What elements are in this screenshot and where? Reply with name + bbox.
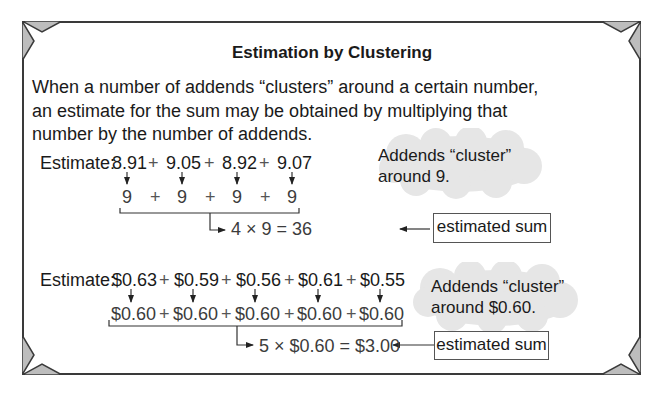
bracket-connector-1 [210, 213, 225, 230]
addend-2-5: $0.55 [360, 270, 405, 290]
addend-1-2: 9.05 [166, 153, 201, 173]
rounded-2-4: $0.60 [297, 304, 342, 324]
plus-sign: + [159, 304, 170, 324]
plus-sign: + [221, 270, 232, 290]
estimated-sum-box-2: estimated sum [434, 331, 549, 360]
plus-sign: + [260, 187, 271, 207]
rounded-2-1: $0.60 [111, 304, 156, 324]
addend-2-4: $0.61 [298, 270, 343, 290]
addend-2-1: $0.63 [112, 270, 157, 290]
rounded-1-3: 9 [232, 187, 242, 207]
plus-sign: + [148, 153, 159, 173]
plus-sign: + [221, 304, 232, 324]
estimate-label-1: Estimate: [40, 153, 115, 173]
rounded-2-5: $0.60 [359, 304, 404, 324]
result-expression-1: 4 × 9 = 36 [231, 219, 312, 239]
plus-sign: + [259, 153, 270, 173]
estimated-sum-box-1: estimated sum [433, 213, 551, 243]
bracket-1 [120, 208, 299, 213]
addend-1-4: 9.07 [277, 153, 312, 173]
addend-2-3: $0.56 [236, 270, 281, 290]
addend-1-3: 8.92 [222, 153, 257, 173]
plus-sign: + [346, 304, 357, 324]
plus-sign: + [205, 187, 216, 207]
estimate-label-2: Estimate: [40, 270, 115, 290]
bracket-connector-2 [237, 326, 253, 345]
addend-2-2: $0.59 [174, 270, 219, 290]
result-expression-2: 5 × $0.60 = $3.00 [259, 336, 400, 356]
plus-sign: + [346, 270, 357, 290]
rounded-2-2: $0.60 [173, 304, 218, 324]
plus-sign: + [150, 187, 161, 207]
addend-1-1: 8.91 [112, 153, 147, 173]
plus-sign: + [284, 304, 295, 324]
plus-sign: + [204, 153, 215, 173]
rounded-1-2: 9 [177, 187, 187, 207]
rounded-1-4: 9 [287, 187, 297, 207]
plus-sign: + [284, 270, 295, 290]
rounded-2-3: $0.60 [235, 304, 280, 324]
rounded-1-1: 9 [122, 187, 132, 207]
plus-sign: + [159, 270, 170, 290]
